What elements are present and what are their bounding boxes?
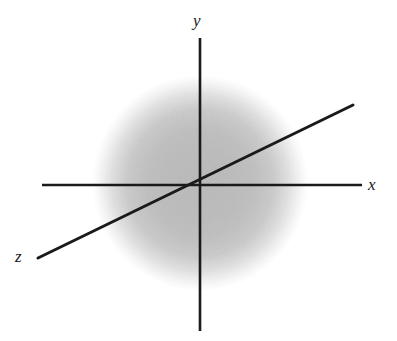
y-axis-label: y	[193, 12, 201, 29]
coordinate-diagram-svg	[0, 0, 397, 341]
z-axis-label: z	[15, 248, 22, 265]
figure-canvas: y x z	[0, 0, 397, 341]
x-axis-label: x	[368, 176, 376, 193]
